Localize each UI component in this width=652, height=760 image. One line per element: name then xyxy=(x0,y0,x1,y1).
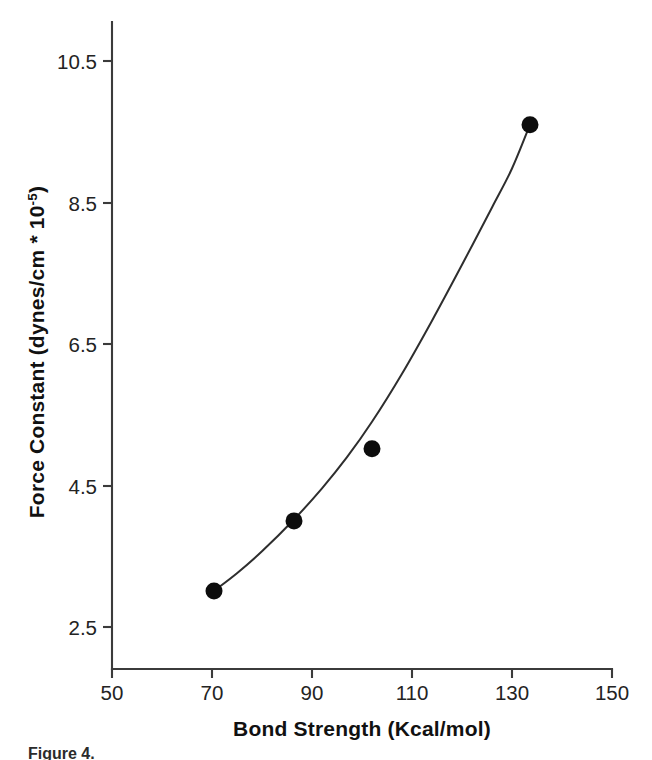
x-tick-label-90: 90 xyxy=(301,681,324,704)
chart-canvas: 10.5 8.5 6.5 4.5 2.5 50 70 90 110 130 15… xyxy=(0,0,652,760)
y-tick-label-8.5: 8.5 xyxy=(69,192,98,215)
y-tick-label-6.5: 6.5 xyxy=(69,333,98,356)
x-tick-label-130: 130 xyxy=(495,681,529,704)
fitted-curve xyxy=(214,125,530,591)
x-tick-label-150: 150 xyxy=(595,681,629,704)
data-point-4 xyxy=(522,116,539,133)
y-axis-title-exponent: -5 xyxy=(25,193,40,206)
x-tick-label-110: 110 xyxy=(396,681,429,704)
data-point-3 xyxy=(364,440,381,457)
figure-container: 10.5 8.5 6.5 4.5 2.5 50 70 90 110 130 15… xyxy=(0,0,652,760)
data-point-markers xyxy=(206,116,539,599)
y-axis-tick-labels: 10.5 8.5 6.5 4.5 2.5 xyxy=(57,50,97,639)
y-axis-title-group: Force Constant (dynes/cm * 10-5) xyxy=(25,186,49,518)
y-tick-label-10.5: 10.5 xyxy=(57,50,97,73)
y-axis-title-main: Force Constant (dynes/cm * 10 xyxy=(25,205,48,518)
y-axis-ticks xyxy=(103,61,112,627)
data-point-2 xyxy=(286,512,303,529)
x-axis-ticks xyxy=(112,669,612,678)
x-tick-label-70: 70 xyxy=(201,681,224,704)
y-axis-title-close: ) xyxy=(25,186,48,193)
data-point-1 xyxy=(206,582,223,599)
axis-lines xyxy=(112,22,612,669)
y-tick-label-4.5: 4.5 xyxy=(69,475,98,498)
x-axis-title: Bond Strength (Kcal/mol) xyxy=(233,717,491,740)
y-axis-title: Force Constant (dynes/cm * 10-5) xyxy=(25,186,49,518)
x-tick-label-50: 50 xyxy=(101,681,124,704)
y-tick-label-2.5: 2.5 xyxy=(69,616,98,639)
x-axis-tick-labels: 50 70 90 110 130 150 xyxy=(101,681,630,704)
figure-caption-partial: Figure 4. xyxy=(28,746,428,760)
